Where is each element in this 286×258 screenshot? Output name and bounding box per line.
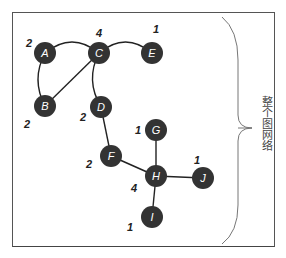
node-label: I [150, 211, 153, 223]
node-degree: 4 [95, 27, 102, 39]
node-degree: 2 [23, 118, 30, 130]
node-label: D [97, 101, 105, 113]
node-c: C4 [88, 27, 110, 64]
node-degree: 4 [130, 182, 137, 194]
node-degree: 1 [194, 154, 200, 166]
node-f: F2 [85, 145, 122, 170]
node-label: G [152, 124, 161, 136]
graph-canvas: A2C4E1B2D2G1F2H4J1I1 [0, 0, 286, 258]
node-label: J [199, 172, 206, 184]
node-a: A2 [25, 37, 56, 64]
node-label: C [95, 47, 103, 59]
node-e: E1 [141, 23, 163, 64]
node-label: H [152, 170, 160, 182]
node-degree: 2 [25, 37, 32, 49]
node-label: E [148, 47, 156, 59]
node-degree: 2 [85, 158, 92, 170]
edges-layer [38, 42, 203, 217]
node-i: I1 [127, 206, 163, 233]
node-b: B2 [23, 95, 56, 130]
node-degree: 1 [153, 23, 159, 35]
node-degree: 1 [127, 221, 133, 233]
node-label: A [40, 47, 48, 59]
nodes-layer: A2C4E1B2D2G1F2H4J1I1 [23, 23, 214, 233]
node-d: D2 [79, 96, 112, 123]
whole-graph-network-label: 整个图网络 [259, 96, 273, 151]
edge-b-c [45, 53, 99, 106]
node-g: G1 [135, 119, 167, 141]
node-h: H4 [130, 165, 167, 194]
node-j: J1 [192, 154, 214, 189]
node-degree: 1 [135, 124, 141, 136]
brace-bracket [222, 17, 252, 244]
graph-diagram: A2C4E1B2D2G1F2H4J1I1 整个图网络 [0, 0, 286, 258]
node-degree: 2 [79, 111, 86, 123]
node-label: B [41, 100, 48, 112]
